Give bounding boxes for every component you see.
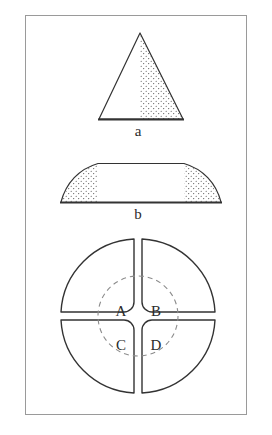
quadrant-label-a: A bbox=[116, 303, 127, 319]
quadrant-label-c: C bbox=[116, 337, 126, 353]
panel-a-caption: a bbox=[118, 124, 158, 139]
quadrant-label-d: D bbox=[151, 337, 162, 353]
panel-b-caption: b bbox=[118, 207, 158, 222]
quadrant-label-b: B bbox=[151, 303, 161, 319]
quadrant-c-sector[interactable] bbox=[61, 320, 134, 393]
trapezoid-stipple-left bbox=[61, 164, 98, 202]
triangle-stipple-region bbox=[99, 33, 183, 119]
quadrant-b-sector[interactable] bbox=[142, 239, 215, 312]
quadrant-a-sector[interactable] bbox=[61, 239, 134, 312]
trapezoid-stipple-right bbox=[184, 164, 221, 202]
figure-root: A B C D a b bbox=[0, 0, 272, 435]
panel-b-trapezoid bbox=[60, 164, 222, 203]
panel-a-triangle bbox=[98, 33, 184, 120]
panel-c-quartered-circle: A B C D bbox=[61, 239, 215, 393]
inner-dashed-circle bbox=[98, 276, 178, 356]
quadrant-d-sector[interactable] bbox=[142, 320, 215, 393]
